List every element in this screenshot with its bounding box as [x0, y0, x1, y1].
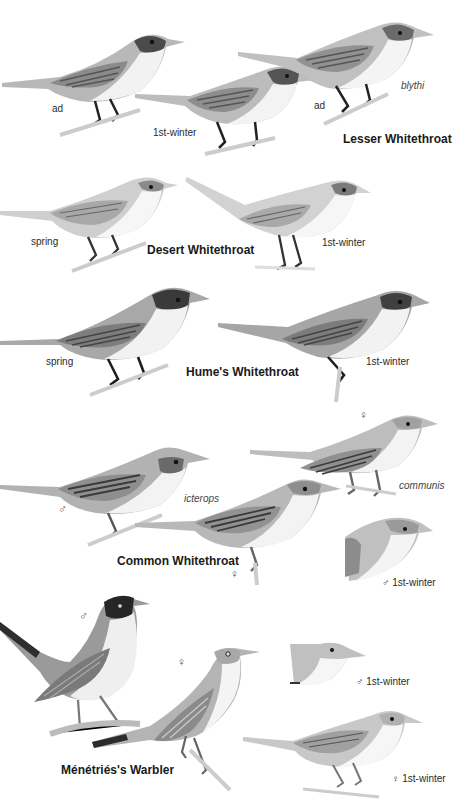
label-season: spring	[31, 236, 58, 247]
label-season: spring	[46, 356, 73, 367]
species-name: Hume's Whitethroat	[186, 365, 299, 379]
label-age: ad	[314, 100, 325, 111]
label-age: ad	[52, 103, 63, 114]
label-subspecies: blythi	[401, 80, 424, 91]
bird-illustration-common-whitethroat-male-1st-winter-head	[345, 515, 435, 585]
female-symbol: ♀	[177, 655, 186, 669]
male-symbol: ♂	[79, 609, 88, 623]
bird-illustration-common-whitethroat-communis-female	[250, 412, 440, 512]
species-name: Desert Whitethroat	[147, 243, 254, 257]
species-name: Common Whitethroat	[117, 554, 239, 568]
label-age: 1st-winter	[366, 356, 409, 367]
label-age: ♂ 1st-winter	[356, 676, 410, 687]
bird-illustration-humes-whitethroat-1st-winter	[218, 287, 433, 402]
label-age: 1st-winter	[322, 237, 365, 248]
species-name: Lesser Whitethroat	[343, 132, 452, 146]
label-subspecies: communis	[399, 480, 445, 491]
male-symbol: ♂	[58, 502, 67, 516]
bird-illustration-desert-whitethroat-1st-winter	[185, 175, 375, 275]
bird-illustration-menetries-warbler-female-1st-winter	[243, 705, 428, 800]
field-guide-plate: ad 1st-winter ad blythi Lesser Whitethro…	[0, 0, 463, 806]
label-age: 1st-winter	[153, 127, 196, 138]
label-age: ♀ 1st-winter	[392, 773, 446, 784]
bird-illustration-desert-whitethroat-spring	[0, 175, 180, 275]
label-age: ♂ 1st-winter	[382, 577, 436, 588]
species-name: Ménétriés's Warbler	[61, 763, 174, 777]
bird-illustration-humes-whitethroat-spring	[0, 283, 215, 398]
label-subspecies: icterops	[184, 493, 219, 504]
bird-illustration-lesser-whitethroat-blythi	[238, 20, 438, 130]
female-symbol: ♀	[359, 408, 368, 422]
female-symbol: ♀	[230, 567, 239, 581]
